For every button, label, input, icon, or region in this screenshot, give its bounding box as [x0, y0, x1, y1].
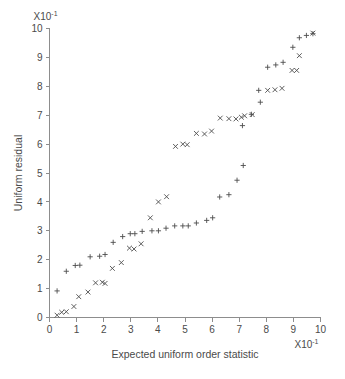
data-point-plus [88, 254, 93, 259]
y-tick-label: 0 [37, 312, 43, 323]
data-point-x [265, 88, 270, 93]
data-point-x [119, 260, 124, 265]
data-point-plus [258, 100, 263, 105]
data-point-plus [149, 228, 154, 233]
x-tick-label: 10 [315, 324, 327, 335]
x-tick-label: 2 [101, 324, 107, 335]
data-point-plus [204, 218, 209, 223]
data-point-plus [217, 194, 222, 199]
data-point-plus [265, 65, 270, 70]
data-point-x [180, 142, 185, 147]
data-point-plus [102, 252, 107, 257]
y-tick-label: 10 [31, 23, 43, 34]
data-point-plus [73, 263, 78, 268]
data-point-x [234, 117, 239, 122]
data-point-x [185, 142, 190, 147]
data-point-plus [226, 192, 231, 197]
y-tick-label: 1 [37, 283, 43, 294]
data-point-plus [256, 88, 261, 93]
data-point-x [59, 310, 64, 315]
x-tick-label: 4 [155, 324, 161, 335]
data-point-x [202, 132, 207, 137]
data-point-plus [156, 228, 161, 233]
data-point-x [290, 68, 295, 73]
data-point-x [194, 131, 199, 136]
x-tick-label: 6 [209, 324, 215, 335]
y-tick-label: 9 [37, 52, 43, 63]
data-point-plus [111, 240, 116, 245]
data-point-plus [77, 263, 82, 268]
data-point-x [139, 241, 144, 246]
x-tick-label: 7 [236, 324, 242, 335]
y-tick-label: 5 [37, 168, 43, 179]
series-plus-series [54, 31, 315, 293]
data-point-x [297, 53, 302, 58]
data-point-x [164, 194, 169, 199]
axis-frame [50, 29, 321, 318]
data-point-plus [180, 223, 185, 228]
x-axis-title: Expected uniform order statistic [111, 348, 258, 360]
y-tick-label: 7 [37, 110, 43, 121]
data-point-plus [172, 223, 177, 228]
data-point-plus [120, 234, 125, 239]
series-x-series [55, 31, 316, 318]
data-point-plus [54, 288, 59, 293]
data-point-x [273, 87, 278, 92]
data-point-x [71, 304, 76, 309]
data-point-x [76, 294, 81, 299]
y-tick-label: 4 [37, 197, 43, 208]
x-axis-multiplier: X10-1 [294, 338, 318, 350]
chart-canvas: 012345678910012345678910Expected uniform… [0, 0, 345, 379]
y-tick-label: 8 [37, 81, 43, 92]
data-point-x [86, 290, 91, 295]
data-point-plus [163, 226, 168, 231]
data-point-plus [234, 178, 239, 183]
y-tick-label: 2 [37, 254, 43, 265]
data-point-plus [140, 229, 145, 234]
data-point-plus [210, 215, 215, 220]
data-point-x [227, 116, 232, 121]
data-point-x [218, 116, 223, 121]
data-point-x [127, 246, 132, 251]
data-point-x [110, 266, 115, 271]
data-point-plus [194, 220, 199, 225]
data-point-x [148, 215, 153, 220]
data-point-x [209, 129, 214, 134]
x-tick-label: 9 [291, 324, 297, 335]
x-tick-label: 3 [128, 324, 134, 335]
data-point-x [173, 144, 178, 149]
y-axis-title: Uniform residual [12, 135, 24, 211]
data-point-plus [297, 35, 302, 40]
data-point-plus [128, 231, 133, 236]
data-point-plus [273, 62, 278, 67]
x-tick-label: 1 [74, 324, 80, 335]
data-point-plus [186, 223, 191, 228]
scatter-plot-figure: 012345678910012345678910Expected uniform… [0, 0, 345, 379]
y-tick-label: 3 [37, 225, 43, 236]
x-tick-label: 0 [47, 324, 53, 335]
data-point-x [132, 247, 137, 252]
data-point-plus [132, 231, 137, 236]
data-point-plus [290, 45, 295, 50]
x-tick-label: 5 [182, 324, 188, 335]
x-tick-label: 8 [264, 324, 270, 335]
data-point-plus [281, 60, 286, 65]
data-point-x [156, 200, 161, 205]
data-point-x [93, 280, 98, 285]
data-point-plus [240, 123, 245, 128]
y-axis-multiplier: X10-1 [34, 10, 58, 22]
data-point-x [64, 309, 69, 314]
y-tick-label: 6 [37, 139, 43, 150]
data-point-plus [64, 269, 69, 274]
data-point-x [280, 86, 285, 91]
data-point-x [55, 313, 60, 318]
data-point-plus [304, 33, 309, 38]
data-point-plus [97, 254, 102, 259]
data-point-x [294, 68, 299, 73]
data-point-plus [241, 163, 246, 168]
